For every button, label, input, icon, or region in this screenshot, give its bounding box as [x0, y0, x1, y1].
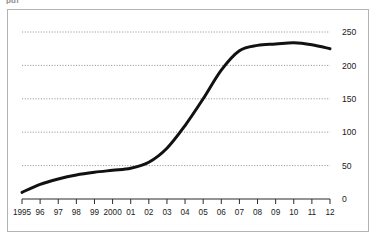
x-axis-tick-label: 11: [308, 208, 317, 217]
x-axis-tick-label: 2000: [103, 208, 122, 217]
gridlines-group: [22, 32, 330, 166]
chart-plot-area: 050100150200250 199596979899200001020304…: [8, 10, 370, 233]
y-axis-tick-label: 0: [342, 194, 347, 204]
x-axis-tick-label: 03: [162, 208, 172, 217]
y-axis-tick-label: 250: [342, 27, 357, 37]
x-axis-tick-label: 02: [144, 208, 154, 217]
x-axis-tick-label: 1995: [13, 208, 32, 217]
x-axis-tick-label: 04: [181, 208, 191, 217]
y-axis-labels-group: 050100150200250: [342, 27, 357, 204]
line-chart-svg: 050100150200250 199596979899200001020304…: [8, 10, 370, 233]
x-axis-tick-label: 07: [235, 208, 245, 217]
clipped-caption: pdf: [6, 0, 19, 4]
x-axis-tick-label: 99: [90, 208, 100, 217]
x-axis-tick-label: 09: [271, 208, 281, 217]
x-axis-tick-label: 08: [253, 208, 263, 217]
x-axis-labels-group: 1995969798992000010203040506070809101112: [13, 208, 335, 217]
x-axis-tick-label: 01: [126, 208, 136, 217]
y-axis-tick-label: 50: [342, 161, 352, 171]
x-axis-tick-label: 05: [199, 208, 209, 217]
y-axis-tick-label: 150: [342, 94, 357, 104]
x-axis-ticks-group: [22, 199, 330, 204]
x-axis-tick-label: 12: [325, 208, 335, 217]
y-axis-tick-label: 100: [342, 127, 357, 137]
x-axis-tick-label: 96: [36, 208, 46, 217]
x-axis-tick-label: 97: [54, 208, 64, 217]
x-axis-tick-label: 10: [289, 208, 299, 217]
figure-frame: 050100150200250 199596979899200001020304…: [7, 9, 369, 232]
x-axis-tick-label: 06: [217, 208, 227, 217]
y-axis-tick-label: 200: [342, 61, 357, 71]
x-axis-tick-label: 98: [72, 208, 82, 217]
